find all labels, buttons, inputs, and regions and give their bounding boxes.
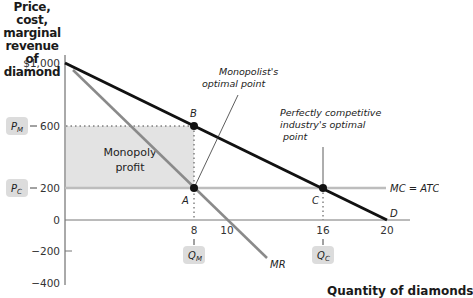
y-tick-label: −400 (31, 277, 60, 289)
y-tick-label: 200 (40, 182, 60, 194)
monopoly-profit-label: Monopoly (103, 146, 157, 159)
monopolist-pointer (194, 95, 238, 188)
x-axis-title: Quantity of diamonds (327, 284, 473, 298)
y-tick-label: −200 (31, 245, 60, 257)
point-c-label: C (312, 195, 319, 206)
monopolist-annotation: optimal point (202, 78, 266, 89)
y-tick-label: 600 (40, 120, 60, 132)
x-tick-label: 10 (220, 224, 233, 236)
competitive-annotation: Perfectly competitive (280, 107, 381, 118)
competitive-annotation: industry's optimal (280, 119, 366, 130)
y-tick-label: 0 (53, 214, 60, 226)
x-tick-label: 8 (191, 224, 198, 236)
demand-label: D (390, 208, 398, 219)
competitive-annotation: point (282, 131, 309, 142)
x-tick-label: 20 (380, 224, 393, 236)
point-b-label: B (190, 108, 197, 119)
x-tick-label: 16 (316, 224, 330, 236)
point-c (319, 184, 327, 192)
point-b (190, 122, 198, 130)
point-a (190, 184, 198, 192)
mr-label: MR (270, 259, 286, 270)
monopoly-profit-label: profit (115, 161, 145, 174)
mc-atc-label: MC = ATC (390, 183, 439, 194)
monopolist-annotation: Monopolist's (219, 66, 278, 77)
y-tick-label: $1,000 (23, 57, 60, 69)
point-a-label: A (181, 195, 189, 206)
